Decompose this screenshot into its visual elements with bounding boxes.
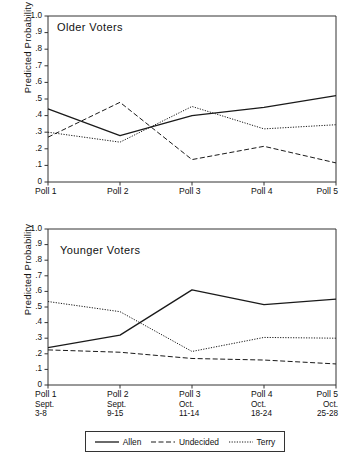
x-axis-tick-label: Poll 4Oct.18-24 <box>251 390 273 419</box>
y-axis-tick-label: .9 <box>16 28 42 36</box>
y-axis-tick-label: .2 <box>16 145 42 153</box>
x-axis-tick-poll: Poll 1 <box>35 390 57 400</box>
y-axis-tick-label: .6 <box>16 78 42 86</box>
legend-item-undecided: Undecided <box>151 437 219 447</box>
x-axis-tick-label: Poll 5Oct.25-28 <box>306 390 338 419</box>
y-axis-tick-label: .6 <box>16 287 42 295</box>
x-axis-tick-month: Sept. <box>107 400 129 410</box>
y-axis-tick-label: .8 <box>16 256 42 264</box>
y-axis-tick-label: .2 <box>16 350 42 358</box>
y-axis-tick-label: .3 <box>16 334 42 342</box>
series-line-undecided <box>48 102 336 163</box>
y-axis-tick-label: .4 <box>16 111 42 119</box>
y-axis-tick-label: 1.0 <box>16 225 42 233</box>
legend-swatch-dashed <box>151 438 175 446</box>
y-axis-tick-label: .1 <box>16 161 42 169</box>
y-axis-tick-label: .9 <box>16 240 42 248</box>
chart-legend: AllenUndecidedTerry <box>85 431 285 452</box>
chart-panel-older-voters: Predicted Probability Older Voters 0.1.2… <box>0 0 354 210</box>
x-axis-tick-poll: Poll 5 <box>306 187 338 197</box>
x-axis-tick-days: 25-28 <box>306 409 338 419</box>
y-axis-tick-label: .4 <box>16 318 42 326</box>
legend-label: Undecided <box>179 437 219 447</box>
y-axis-tick-label: .1 <box>16 365 42 373</box>
x-axis-tick-label: Poll 1Sept.3-8 <box>35 390 57 419</box>
chart-panel-younger-voters: Predicted Probability Younger Voters 0.1… <box>0 222 354 422</box>
legend-swatch-dotted <box>229 438 253 446</box>
older-voters-plot <box>0 0 354 210</box>
y-axis-tick-label: .3 <box>16 128 42 136</box>
x-axis-tick-poll: Poll 1 <box>35 187 57 197</box>
x-axis-tick-label: Poll 5 <box>306 187 338 197</box>
x-axis-tick-poll: Poll 4 <box>251 187 273 197</box>
series-line-allen <box>48 96 336 136</box>
y-axis-tick-label: 1.0 <box>16 12 42 20</box>
x-axis-tick-label: Poll 1 <box>35 187 57 197</box>
x-axis-tick-label: Poll 3 <box>179 187 201 197</box>
y-axis-tick-label: .7 <box>16 62 42 70</box>
figure-predicted-probability: Predicted Probability Older Voters 0.1.2… <box>0 0 354 462</box>
x-axis-tick-days: 3-8 <box>35 409 57 419</box>
series-line-undecided <box>48 350 336 364</box>
legend-label: Terry <box>257 437 276 447</box>
x-axis-tick-label: Poll 2Sept.9-15 <box>107 390 129 419</box>
x-axis-tick-month: Sept. <box>35 400 57 410</box>
legend-item-terry: Terry <box>229 437 276 447</box>
x-axis-tick-days: 9-15 <box>107 409 129 419</box>
x-axis-tick-poll: Poll 2 <box>107 390 129 400</box>
y-axis-tick-label: 0 <box>16 381 42 389</box>
older-voters-title: Older Voters <box>57 21 123 33</box>
y-axis-tick-label: 0 <box>16 178 42 186</box>
legend-item-list: AllenUndecidedTerry <box>86 432 284 451</box>
series-line-terry <box>48 302 336 352</box>
x-axis-tick-label: Poll 2 <box>107 187 129 197</box>
y-axis-tick-label: .8 <box>16 45 42 53</box>
x-axis-tick-days: 18-24 <box>251 409 273 419</box>
y-axis-tick-label: .7 <box>16 272 42 280</box>
x-axis-tick-poll: Poll 5 <box>306 390 338 400</box>
x-axis-tick-label: Poll 4 <box>251 187 273 197</box>
x-axis-tick-poll: Poll 4 <box>251 390 273 400</box>
x-axis-tick-month: Oct. <box>306 400 338 410</box>
younger-voters-title: Younger Voters <box>60 244 140 256</box>
x-axis-tick-month: Oct. <box>179 400 201 410</box>
x-axis-tick-poll: Poll 3 <box>179 187 201 197</box>
y-axis-tick-label: .5 <box>16 95 42 103</box>
series-line-allen <box>48 290 336 348</box>
x-axis-tick-poll: Poll 2 <box>107 187 129 197</box>
x-axis-tick-label: Poll 3Oct.11-14 <box>179 390 201 419</box>
x-axis-tick-poll: Poll 3 <box>179 390 201 400</box>
legend-item-allen: Allen <box>95 437 142 447</box>
legend-label: Allen <box>123 437 142 447</box>
legend-swatch-solid <box>95 438 119 446</box>
y-axis-tick-label: .5 <box>16 303 42 311</box>
x-axis-tick-days: 11-14 <box>179 409 201 419</box>
x-axis-tick-month: Oct. <box>251 400 273 410</box>
